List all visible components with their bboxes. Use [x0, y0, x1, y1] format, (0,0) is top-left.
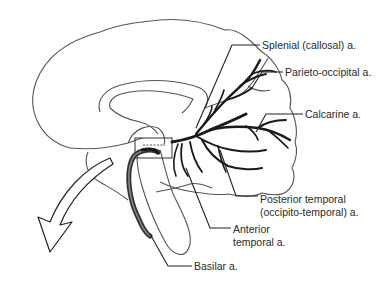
label-parieto-occipital-artery: Parieto-occipital a. — [285, 66, 371, 78]
leader-anterior-temporal — [186, 168, 231, 228]
label-anterior-temporal-line2: temporal a. — [233, 236, 286, 248]
po-sub-2 — [240, 74, 266, 86]
corpus-callosum-inner — [110, 91, 193, 113]
label-basilar-artery: Basilar a. — [194, 260, 238, 272]
frontal-base-outline — [70, 138, 142, 149]
label-anterior-temporal-line1: Anterior — [233, 223, 270, 235]
leader-posterior-temporal — [220, 150, 258, 196]
temporal-branch-3 — [190, 142, 202, 172]
temporal-branch-5 — [218, 146, 226, 172]
po-sub-1 — [226, 88, 252, 100]
thalamus-outline — [128, 127, 165, 146]
occipital-inner-outline — [205, 58, 268, 108]
label-calcarine-artery: Calcarine a. — [305, 108, 361, 120]
curved-arrow-icon — [38, 158, 113, 252]
label-posterior-temporal-line2: (occipito-temporal) a. — [260, 206, 359, 218]
label-posterior-temporal-line1: Posterior temporal — [260, 193, 346, 205]
temporal-branch-6 — [174, 144, 178, 176]
fornix-outline — [110, 108, 158, 134]
label-splenial-artery: Splenial (callosal) a. — [262, 39, 356, 51]
leader-splenial — [196, 45, 260, 128]
basilar-artery — [129, 150, 158, 236]
leader-parieto-occipital — [252, 72, 283, 88]
